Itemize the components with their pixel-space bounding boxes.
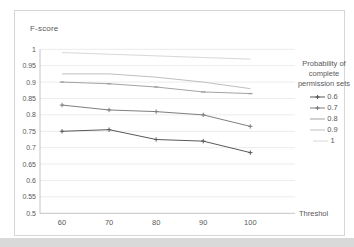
series-line-0.7 [62,105,250,126]
y-tick-label: 0.85 [22,95,36,102]
legend-label: 0.9 [327,124,337,135]
legend-line-sample [310,115,325,123]
legend-entry-0.7: 0.7 [295,102,353,113]
legend-label: 0.8 [327,113,337,124]
legend-line-sample [310,126,325,134]
chart-title: F-score [30,24,59,33]
page-background-strip [0,238,354,247]
series-line-1 [62,53,250,60]
y-tick-label: 0.7 [26,144,36,151]
legend: Probability of complete permission sets … [295,59,353,146]
legend-line-sample [313,137,328,145]
y-tick-label: 1 [32,46,36,53]
legend-label: 1 [330,135,334,146]
y-tick-label: 0.8 [26,111,36,118]
x-tick-label: 100 [244,218,257,227]
y-tick-label: 0.55 [22,193,36,200]
series-line-0.8 [62,82,250,93]
y-tick-label: 0.5 [26,210,36,217]
y-tick-label: 0.9 [26,79,36,86]
legend-line-sample [310,104,325,112]
legend-entry-0.8: 0.8 [295,113,353,124]
legend-entry-1: 1 [295,135,353,146]
x-tick-label: 60 [58,218,66,227]
y-tick-label: 0.6 [26,177,36,184]
x-tick-label: 70 [105,218,113,227]
legend-label: 0.7 [327,102,337,113]
legend-line-sample [310,93,325,101]
chart-container: 10.950.90.850.80.750.70.650.60.550.56070… [14,10,345,236]
y-tick-label: 0.95 [22,62,36,69]
legend-entries: 0.60.70.80.91 [295,91,353,146]
x-tick-label: 90 [199,218,207,227]
legend-label: 0.6 [327,91,337,102]
y-tick-label: 0.75 [22,128,36,135]
x-tick-label: 80 [152,218,160,227]
x-axis-label: Threshol [299,209,329,218]
page: 10.950.90.850.80.750.70.650.60.550.56070… [0,0,354,247]
legend-entry-0.6: 0.6 [295,91,353,102]
legend-entry-0.9: 0.9 [295,124,353,135]
y-tick-label: 0.65 [22,161,36,168]
legend-title: Probability of complete permission sets [295,59,353,89]
